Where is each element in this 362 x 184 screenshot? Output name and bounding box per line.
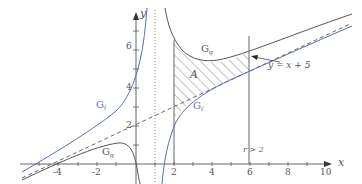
gf-label-sub: f: [104, 104, 106, 111]
x-tick-label: -4: [53, 168, 62, 177]
boundary-r-label: r > 2: [243, 146, 264, 154]
gg-label-text: G: [201, 43, 209, 54]
gg-label-sub: g: [209, 48, 213, 55]
curve-label-gg-bottom: Gg: [102, 147, 114, 158]
curve-label-gf-right: Gf: [193, 101, 203, 112]
x-tick-label: 4: [209, 168, 215, 177]
x-tick-label: 6: [247, 168, 253, 177]
curve-gg-right: [165, 8, 352, 61]
y-axis-label: y: [140, 8, 146, 19]
y-tick-label: 4: [126, 83, 132, 92]
curve-gg-left: [22, 143, 140, 184]
x-tick-label: -2: [92, 168, 101, 177]
gg-label-text: G: [102, 146, 110, 157]
curve-gf-right: [162, 26, 352, 184]
x-tick-label: 10: [320, 168, 331, 177]
y-tick-label: 6: [126, 42, 132, 51]
curve-label-gg-top: Gg: [201, 44, 213, 55]
x-tick-label: 2: [171, 168, 177, 177]
y-tick-label: 2: [126, 121, 132, 130]
area-label: A: [190, 69, 198, 80]
gf-label-text: G: [96, 99, 104, 110]
x-tick-label: 8: [285, 168, 291, 177]
y-axis: [133, 12, 139, 184]
asymptote-label: y = x + 5: [268, 61, 310, 70]
gf-label-sub: f: [201, 105, 203, 112]
function-graph-diagram: [0, 0, 362, 184]
gf-label-text: G: [193, 100, 201, 111]
x-axis-label: x: [338, 157, 344, 168]
gg-label-sub: g: [110, 151, 114, 158]
curve-label-gf-left: Gf: [96, 100, 106, 111]
